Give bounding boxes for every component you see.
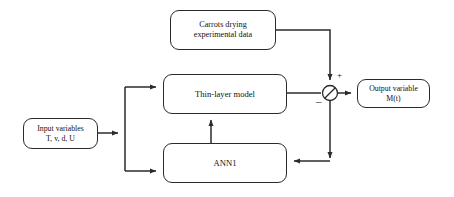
node-output-variable-label: Output variable M(t) bbox=[366, 84, 421, 102]
node-input-variables-label: Input variables T, v, d, U bbox=[34, 124, 87, 142]
summing-junction bbox=[323, 86, 338, 101]
node-carrots-label: Carrots drying experimental data bbox=[191, 20, 255, 39]
node-ann1-label: ANN1 bbox=[211, 158, 240, 168]
summing-junction-plus-sign: + bbox=[337, 71, 342, 80]
node-output-variable[interactable]: Output variable M(t) bbox=[357, 79, 430, 108]
node-input-variables[interactable]: Input variables T, v, d, U bbox=[23, 118, 98, 149]
node-thin-layer-model[interactable]: Thin-layer model bbox=[163, 74, 287, 114]
node-carrots-drying-experimental-data[interactable]: Carrots drying experimental data bbox=[170, 10, 276, 50]
node-ann1[interactable]: ANN1 bbox=[163, 143, 287, 183]
edge-carrots-to-sum bbox=[276, 30, 330, 80]
block-diagram-canvas: Carrots drying experimental data Thin-la… bbox=[0, 0, 454, 197]
node-thin-layer-model-label: Thin-layer model bbox=[192, 89, 258, 99]
summing-junction-minus-sign: – bbox=[316, 96, 322, 107]
